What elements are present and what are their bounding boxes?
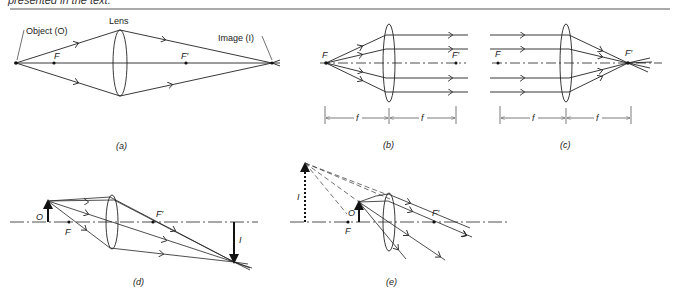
focal-label-f: F: [322, 50, 328, 60]
focal-label-f: F: [495, 49, 501, 59]
virtual-image-label: I: [297, 192, 300, 202]
focal-point-f-prime: [184, 61, 187, 64]
panel-label-a: (a): [116, 141, 127, 151]
object-label: O: [348, 208, 355, 218]
focal-length-dimension: [325, 106, 456, 124]
focal-label-f-prime: F′: [432, 208, 439, 218]
object-label: O: [36, 212, 43, 222]
focal-label-f-prime: F′: [181, 51, 188, 61]
focal-point-f: [52, 61, 55, 64]
focal-point-f-prime: [626, 61, 630, 65]
focal-label-f-prime: F′: [625, 48, 632, 58]
focal-point-f: [67, 220, 70, 223]
panel-label-c: (c): [560, 140, 571, 150]
panel-label-d: (d): [133, 277, 144, 287]
dimension-label-f-right: f: [596, 113, 600, 123]
focal-label-f-prime: F′: [452, 50, 459, 60]
panel-label-e: (e): [386, 277, 397, 287]
focal-point-f: [497, 62, 500, 65]
panel-c: F F′ f f (c): [490, 24, 662, 150]
dimension-label-f-right: f: [421, 113, 425, 123]
image-label: Image (I): [218, 33, 254, 43]
lens-ray-diagram-figure: Object (O) Lens F F′ Image (I) (a) F F′: [0, 0, 677, 305]
object-label: Object (O): [26, 26, 68, 36]
focal-label-f: F: [65, 227, 71, 237]
panel-label-b: (b): [383, 140, 394, 150]
dimension-label-f-left: f: [532, 113, 536, 123]
focal-length-dimension: [500, 106, 631, 124]
focal-label-f: F: [345, 226, 351, 236]
image-point: [270, 61, 273, 64]
focal-point-f: [324, 61, 328, 65]
image-label: I: [239, 235, 242, 245]
focal-point-f-prime: [432, 220, 435, 223]
focal-point-f-prime: [455, 62, 458, 65]
focal-point-f-prime: [151, 220, 154, 223]
object-point: [14, 61, 18, 65]
panel-e: I O F F′ (e): [290, 163, 508, 287]
lens-label: Lens: [109, 16, 129, 26]
focal-label-f: F: [54, 51, 60, 61]
panel-a: Object (O) Lens F F′ Image (I) (a): [14, 16, 280, 151]
panel-d: O F F′ I (d): [10, 195, 258, 287]
panel-b: F F′ f f (b): [320, 24, 468, 150]
focal-point-f: [346, 220, 349, 223]
focal-label-f-prime: F′: [156, 209, 163, 219]
dimension-label-f-left: f: [356, 113, 360, 123]
